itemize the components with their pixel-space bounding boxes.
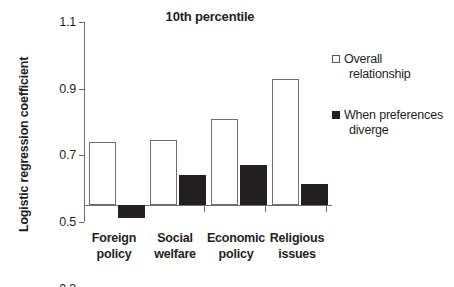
y-tick-mark — [79, 22, 84, 23]
bar-social-welfare-overall-relationship — [150, 140, 177, 205]
y-tick-label: 0.7 — [59, 148, 76, 162]
x-axis-label-religious-issues: Religious issues — [258, 230, 336, 262]
y-tick-label: 0.5 — [59, 215, 76, 229]
bar-economic-policy-overall-relationship — [211, 119, 238, 206]
bar-foreign-policy-when-preferences-diverge — [118, 205, 145, 218]
chart-figure: Logistic regression coefficient 10th per… — [0, 0, 454, 287]
legend-label-overall: Overall relationship — [332, 52, 454, 82]
y-axis-label: Logistic regression coefficient — [17, 57, 31, 232]
y-axis-label-container: Logistic regression coefficient — [0, 0, 22, 235]
legend-item-overall-relationship: Overall relationship — [332, 52, 454, 82]
x-axis-label-line1: Religious — [258, 230, 336, 246]
x-tick-mark — [326, 205, 327, 212]
legend-label-line1: Overall — [344, 52, 382, 66]
bar-economic-policy-when-preferences-diverge — [240, 165, 267, 205]
y-axis-line — [84, 22, 85, 222]
bar-religious-issues-when-preferences-diverge — [301, 184, 328, 206]
y-tick-label: 0.9 — [59, 82, 76, 96]
y-tick-mark — [79, 89, 84, 90]
chart-legend: Overall relationship When preferences di… — [332, 52, 454, 164]
x-axis-label-line2: issues — [258, 246, 336, 262]
y-tick-mark — [79, 222, 84, 223]
plot-area: 1.1 0.9 0.7 0.5 0.3 0.1 -0.1 — [84, 22, 329, 222]
legend-item-when-preferences-diverge: When preferences diverge — [332, 108, 454, 138]
y-tick-label: 1.1 — [59, 15, 76, 29]
open-square-icon — [332, 55, 340, 63]
bar-religious-issues-overall-relationship — [272, 79, 299, 206]
x-tick-mark — [265, 205, 266, 212]
bar-foreign-policy-overall-relationship — [89, 142, 116, 205]
y-tick-label: 0.3 — [59, 282, 76, 287]
legend-label-diverge: When preferences diverge — [332, 108, 454, 138]
bar-social-welfare-when-preferences-diverge — [179, 175, 206, 205]
y-tick-mark — [79, 155, 84, 156]
legend-label-line1: When preferences — [344, 108, 443, 122]
x-axis-labels: Foreign policy Social welfare Economic p… — [84, 230, 332, 280]
filled-square-icon — [332, 111, 340, 119]
x-tick-mark — [204, 205, 205, 212]
legend-label-line2: relationship — [344, 67, 454, 82]
legend-label-line2: diverge — [344, 123, 454, 138]
